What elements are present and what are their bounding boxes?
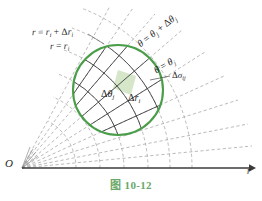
label-delta-sigma: Δσij (172, 71, 186, 82)
label-r-outer-eq: = (36, 27, 46, 37)
figure-caption: 图 10-12 (0, 176, 262, 192)
grid-arc (48, 121, 76, 168)
label-r-inner: r = ri (50, 42, 70, 52)
label-delta-r: Δri (128, 93, 140, 104)
figure-container: r = ri + Δri r = ri θ = θj + Δθj θ = θj … (0, 0, 262, 201)
label-origin: O (5, 158, 13, 169)
label-r-outer-delta-sub: i (71, 30, 73, 37)
dashed-arc (48, 121, 76, 168)
caption-number-value: 10-12 (125, 179, 152, 191)
label-r-outer: r = ri + Δri (32, 28, 73, 39)
label-delta-sigma-sub: ij (182, 75, 185, 81)
label-delta-theta: Δθj (101, 89, 114, 100)
solid-grid-group (22, 0, 248, 168)
origin-fan-cluster (22, 147, 38, 168)
label-delta-r-sub: i (138, 97, 140, 104)
label-r-inner-base-sub: i (68, 45, 70, 52)
caption-label: 图 (110, 179, 121, 191)
label-r-inner-eq: = (54, 41, 64, 51)
label-r-outer-plus: + (51, 27, 61, 37)
label-delta-theta-sub: j (112, 93, 114, 100)
